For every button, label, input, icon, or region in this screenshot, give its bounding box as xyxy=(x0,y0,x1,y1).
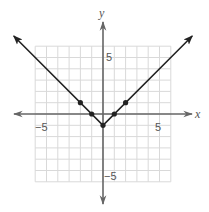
data-point xyxy=(112,111,117,116)
data-point xyxy=(100,123,105,128)
y-axis-label: y xyxy=(98,6,105,20)
graph: x y −5 5 5 −5 xyxy=(0,0,209,212)
y-tick-label-neg5: −5 xyxy=(104,170,117,182)
data-point xyxy=(123,100,128,105)
x-tick-label-neg5: −5 xyxy=(35,121,48,133)
x-axis-label: x xyxy=(194,107,201,121)
y-tick-label-pos5: 5 xyxy=(106,51,112,63)
data-point xyxy=(89,111,94,116)
data-point xyxy=(78,100,83,105)
x-tick-label-pos5: 5 xyxy=(155,121,161,133)
